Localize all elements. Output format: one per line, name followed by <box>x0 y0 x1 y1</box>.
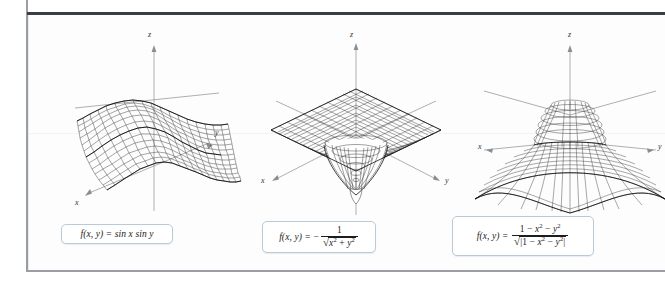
x-axis-arrow <box>85 189 92 196</box>
caption-box-plot-3: f(x, y) = 1 − x2 − y2 √ |1 − x2 − y2| <box>452 216 594 256</box>
formula-plot-1: f(x, y) = sin x sin y <box>80 229 153 239</box>
surface-plot-negative-inverse-radius: z x y <box>254 33 459 218</box>
formula-3-equals: = <box>503 231 508 241</box>
formula-1-lhs: f(x, y) <box>80 229 103 239</box>
formula-2-denominator: √ x2 + y2 <box>321 237 358 249</box>
plot-3-wireframe <box>475 100 665 213</box>
plot-1-y-axis-label: y <box>215 129 219 137</box>
surface-plot-peak-skirt: z x y <box>464 33 665 218</box>
formula-2-numerator: 1 <box>335 225 344 236</box>
plot-3-z-axis-label: z <box>568 31 571 39</box>
plot-1-z-axis-label: z <box>148 31 151 39</box>
formula-1-equals: = <box>106 229 111 239</box>
plot-3-y-axis-label: y <box>658 143 662 151</box>
plot-2-singularity-tip <box>350 188 362 204</box>
formula-1-rhs: sin x sin y <box>115 229 154 239</box>
plot-1-x-axis-label: x <box>75 199 79 207</box>
formula-2-equals: = <box>305 232 310 242</box>
aux-axis-line <box>75 93 219 108</box>
plot-2-y-axis-label: y <box>445 177 449 185</box>
formula-2-sign: − <box>313 232 318 242</box>
plot-3-svg <box>464 33 665 218</box>
formula-3-denominator: √ |1 − x2 − y2| <box>512 236 568 248</box>
formula-2-fraction: 1 √ x2 + y2 <box>321 225 358 249</box>
formula-2-radicand: x2 + y2 <box>328 237 356 249</box>
formula-plot-2: f(x, y) = − 1 √ x2 + y2 <box>279 225 359 249</box>
page-bottom-rule <box>27 270 665 272</box>
formula-3-fraction: 1 − x2 − y2 √ |1 − x2 − y2| <box>512 224 568 248</box>
caption-box-plot-1: f(x, y) = sin x sin y <box>61 224 173 244</box>
y-axis-arrow <box>433 175 440 181</box>
x-axis-arrow <box>272 175 279 181</box>
formula-3-sqrt: √ |1 − x2 − y2| <box>514 236 566 248</box>
plot-2-x-axis-label: x <box>261 177 265 185</box>
caption-box-plot-2: f(x, y) = − 1 √ x2 + y2 <box>262 221 376 253</box>
formula-3-lhs: f(x, y) <box>477 231 500 241</box>
plot-3-x-axis-label: x <box>478 143 482 151</box>
formula-3-radicand: |1 − x2 − y2| <box>519 236 566 248</box>
formula-2-lhs: f(x, y) <box>279 232 302 242</box>
surface-plot-sin-x-sin-y: z y x <box>59 33 249 218</box>
formula-2-sqrt: √ x2 + y2 <box>323 237 356 249</box>
plot-2-z-axis-label: z <box>350 31 353 39</box>
formula-plot-3: f(x, y) = 1 − x2 − y2 √ |1 − x2 − y2| <box>477 224 570 248</box>
plot-1-svg <box>59 33 249 218</box>
z-axis-arrow <box>568 45 573 52</box>
plot-1-wireframe <box>77 100 241 190</box>
plot-2-svg <box>254 33 459 218</box>
z-axis-arrow <box>354 43 359 50</box>
z-axis-arrow <box>152 45 157 52</box>
formula-3-numerator: 1 − x2 − y2 <box>518 224 563 235</box>
